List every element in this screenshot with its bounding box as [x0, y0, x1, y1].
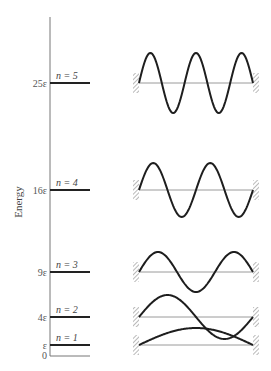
energy-value-label-n3: 9ε: [7, 268, 47, 278]
quantum-number-label-n1: n = 1: [56, 333, 78, 343]
left-wall-icon: [133, 335, 139, 355]
standing-waves: [133, 53, 259, 355]
left-wall-icon: [133, 73, 139, 93]
right-wall-icon: [253, 335, 259, 355]
energy-value-label-n5: 25ε: [7, 79, 47, 89]
right-wall-icon: [253, 73, 259, 93]
quantum-number-label-n2: n = 2: [56, 305, 78, 315]
quantum-number-label-n5: n = 5: [56, 71, 78, 81]
energy-value-label-n2: 4ε: [7, 313, 47, 323]
right-wall-icon: [253, 307, 259, 327]
left-wall-icon: [133, 180, 139, 200]
right-wall-icon: [253, 180, 259, 200]
left-wall-icon: [133, 262, 139, 282]
right-wall-icon: [253, 262, 259, 282]
standing-wave-n1: [139, 328, 253, 345]
zero-label: 0: [7, 351, 47, 361]
left-wall-icon: [133, 307, 139, 327]
quantum-number-label-n3: n = 3: [56, 260, 78, 270]
quantum-number-label-n4: n = 4: [56, 178, 78, 188]
axis-title-energy: Energy: [12, 186, 24, 218]
energy-value-label-n1: ε: [7, 341, 47, 351]
